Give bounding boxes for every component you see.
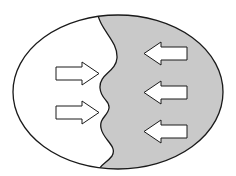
diagram-canvas [0,0,236,176]
diagram-svg [0,0,236,176]
